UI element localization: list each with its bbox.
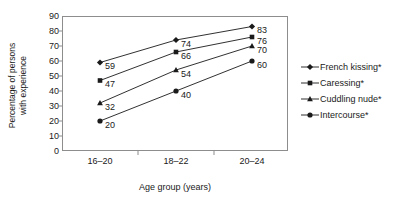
chart-legend: French kissing*Caressing*Cuddling nude*I… bbox=[300, 59, 408, 123]
data-value-labels: 597483476676325470204060 bbox=[105, 25, 267, 130]
y-tick-marks bbox=[59, 31, 63, 136]
data-value-label: 66 bbox=[181, 51, 191, 61]
x-tick-label: 16–20 bbox=[87, 157, 112, 166]
legend-item[interactable]: French kissing* bbox=[300, 59, 408, 75]
data-value-label: 83 bbox=[257, 25, 267, 35]
data-value-label: 40 bbox=[181, 90, 191, 100]
data-point-marker-circle bbox=[97, 118, 102, 123]
data-point-marker-triangle bbox=[249, 43, 255, 48]
x-tick-marks bbox=[138, 151, 214, 155]
legend-item[interactable]: Intercourse* bbox=[300, 107, 408, 123]
legend-item[interactable]: Caressing* bbox=[300, 75, 408, 91]
x-tick-label: 20–24 bbox=[239, 157, 264, 166]
series-line bbox=[100, 27, 252, 63]
data-point-marker-diamond bbox=[249, 23, 255, 29]
legend-marker-diamond-icon bbox=[300, 59, 320, 75]
data-value-label: 59 bbox=[105, 61, 115, 71]
legend-label: French kissing* bbox=[320, 62, 382, 72]
legend-label: Intercourse* bbox=[320, 110, 369, 120]
data-point-marker-diamond bbox=[97, 59, 103, 65]
series-line bbox=[100, 37, 252, 81]
data-point-marker-square bbox=[98, 78, 103, 83]
legend-item[interactable]: Cuddling nude* bbox=[300, 91, 408, 107]
x-tick-label: 18–22 bbox=[163, 157, 188, 166]
series-line bbox=[100, 46, 252, 103]
data-value-label: 47 bbox=[105, 79, 115, 89]
data-point-marker-circle bbox=[249, 58, 254, 63]
data-value-label: 60 bbox=[257, 60, 267, 70]
legend-marker-square-icon bbox=[300, 75, 320, 91]
data-value-label: 20 bbox=[105, 120, 115, 130]
data-point-marker-circle bbox=[173, 88, 178, 93]
series-markers bbox=[97, 23, 255, 123]
data-point-marker-square bbox=[174, 50, 179, 55]
data-point-marker-diamond bbox=[173, 37, 179, 43]
data-point-marker-circle bbox=[307, 112, 312, 117]
data-value-label: 74 bbox=[181, 39, 191, 49]
chart-figure: Percentage of persons with experience 01… bbox=[0, 0, 408, 211]
data-value-label: 32 bbox=[105, 102, 115, 112]
data-value-label: 54 bbox=[181, 69, 191, 79]
legend-marker-circle-icon bbox=[300, 107, 320, 123]
data-point-marker-square bbox=[250, 35, 255, 40]
data-value-label: 70 bbox=[257, 45, 267, 55]
legend-label: Caressing* bbox=[320, 78, 364, 88]
data-point-marker-square bbox=[308, 81, 313, 86]
legend-marker-triangle-icon bbox=[300, 91, 320, 107]
data-point-marker-diamond bbox=[307, 64, 313, 70]
legend-label: Cuddling nude* bbox=[320, 94, 382, 104]
x-axis-title: Age group (years) bbox=[62, 182, 288, 192]
